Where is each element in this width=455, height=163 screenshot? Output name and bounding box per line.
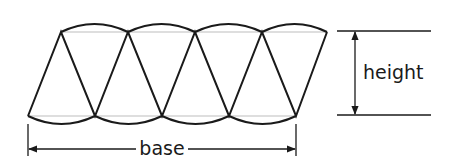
- height-label: height: [363, 61, 424, 83]
- base-label: base: [139, 137, 184, 159]
- sector-radii: [28, 32, 327, 116]
- top-arcs: [61, 24, 327, 32]
- sectors-parallelogram-diagram: base height: [0, 0, 455, 163]
